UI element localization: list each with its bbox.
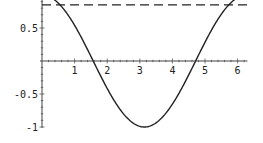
y-tick-label: 0.5: [20, 23, 38, 34]
x-tick-label: 5: [202, 65, 208, 76]
cos-curve: [42, 0, 247, 127]
x-tick-label: 2: [104, 65, 110, 76]
x-tick-label: 1: [72, 65, 78, 76]
ticks: 1234560.5-0.5-1: [14, 0, 244, 133]
series: [42, 0, 247, 127]
y-tick-label: -1: [26, 122, 38, 133]
x-tick-label: 6: [235, 65, 241, 76]
x-tick-label: 3: [137, 65, 143, 76]
y-tick-label: -0.5: [14, 89, 38, 100]
x-tick-label: 4: [169, 65, 175, 76]
chart: 1234560.5-0.5-1: [0, 0, 263, 143]
